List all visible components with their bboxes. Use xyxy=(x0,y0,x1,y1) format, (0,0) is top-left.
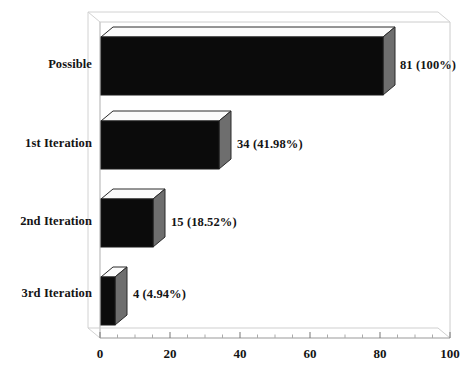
bar-front-face xyxy=(101,121,219,169)
bar-front-face xyxy=(101,277,115,325)
category-label-2nd-iteration: 2nd Iteration xyxy=(0,214,92,229)
bar-front-face xyxy=(101,199,153,247)
bar-3rd-iteration[interactable] xyxy=(101,267,127,325)
data-label-1st-iteration: 34 (41.98%) xyxy=(237,137,303,152)
bars-group xyxy=(101,27,395,325)
bar-top-face xyxy=(101,27,395,37)
bar-side-face xyxy=(383,27,395,95)
bar-1st-iteration[interactable] xyxy=(101,111,231,169)
x-tick-label-20: 20 xyxy=(150,346,190,362)
bar-side-face xyxy=(115,267,127,325)
data-label-possible: 81 (100%) xyxy=(400,58,456,73)
bar-side-face xyxy=(219,111,231,169)
bar-side-face xyxy=(153,189,165,247)
category-label-possible: Possible xyxy=(0,57,92,72)
category-label-3rd-iteration: 3rd Iteration xyxy=(0,286,92,301)
data-label-3rd-iteration: 4 (4.94%) xyxy=(133,287,186,302)
bar-2nd-iteration[interactable] xyxy=(101,189,165,247)
x-tick-label-40: 40 xyxy=(220,346,260,362)
x-tick-label-60: 60 xyxy=(290,346,330,362)
frame-top-depth-edge xyxy=(88,12,450,22)
data-label-2nd-iteration: 15 (18.52%) xyxy=(171,215,237,230)
bar-chart: Possible 1st Iteration 2nd Iteration 3rd… xyxy=(0,0,476,378)
x-axis-ticks xyxy=(100,332,450,338)
category-label-1st-iteration: 1st Iteration xyxy=(0,136,92,151)
x-tick-label-0: 0 xyxy=(80,346,120,362)
bar-possible[interactable] xyxy=(101,27,395,95)
frame-floor-front-edge xyxy=(88,328,450,338)
bar-front-face xyxy=(101,37,383,95)
x-tick-label-80: 80 xyxy=(360,346,400,362)
x-tick-label-100: 100 xyxy=(430,346,470,362)
bar-top-face xyxy=(101,111,231,121)
